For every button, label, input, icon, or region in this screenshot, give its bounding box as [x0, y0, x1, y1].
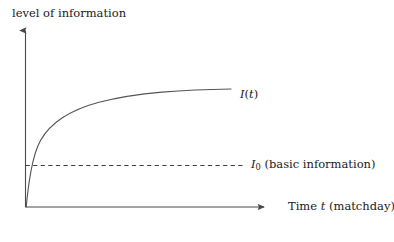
x-axis-label-suffix: (matchday) [325, 199, 394, 213]
information-curve-figure: level of information Time t (matchday) I… [0, 0, 394, 242]
curve-label-paren-close: ) [254, 87, 259, 101]
x-axis-label-prefix: Time [288, 199, 321, 213]
x-axis-label: Time t (matchday) [288, 201, 394, 213]
curve-label: I(t) [240, 89, 258, 101]
information-curve [26, 89, 231, 207]
y-axis-label: level of information [12, 8, 126, 20]
baseline-label-description: (basic information) [261, 157, 376, 171]
baseline-label: I0 (basic information) [251, 159, 376, 172]
